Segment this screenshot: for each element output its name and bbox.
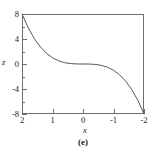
x-tick-major [22, 109, 23, 114]
figure-panel: 840-4-8 210-1-2 z x (e) [0, 0, 166, 154]
x-axis-title: x [83, 126, 87, 135]
y-tick-minor [22, 102, 25, 103]
x-tick-label: -2 [140, 116, 147, 125]
y-tick-label: -8 [12, 110, 19, 119]
x-tick-major [114, 109, 115, 114]
y-tick-label: 0 [15, 60, 19, 69]
x-tick-major [53, 109, 54, 114]
y-tick-major [22, 14, 27, 15]
figure-caption: (e) [0, 138, 166, 147]
curve-line [22, 14, 144, 114]
curve-plot [22, 14, 144, 114]
x-tick-label: 2 [20, 116, 24, 125]
x-tick-label: -1 [110, 116, 117, 125]
y-tick-label: -4 [12, 85, 19, 94]
y-tick-minor [22, 27, 25, 28]
x-tick-label: 1 [50, 116, 54, 125]
y-tick-major [22, 89, 27, 90]
x-tick-major [144, 109, 145, 114]
x-tick-label: 0 [81, 116, 85, 125]
y-tick-major [22, 64, 27, 65]
x-tick-major [83, 109, 84, 114]
y-tick-label: 4 [15, 35, 19, 44]
y-tick-minor [22, 52, 25, 53]
y-tick-label: 8 [15, 10, 19, 19]
y-tick-major [22, 39, 27, 40]
y-axis-title: z [2, 58, 5, 67]
y-tick-minor [22, 77, 25, 78]
plot-area: 840-4-8 210-1-2 [22, 14, 144, 114]
